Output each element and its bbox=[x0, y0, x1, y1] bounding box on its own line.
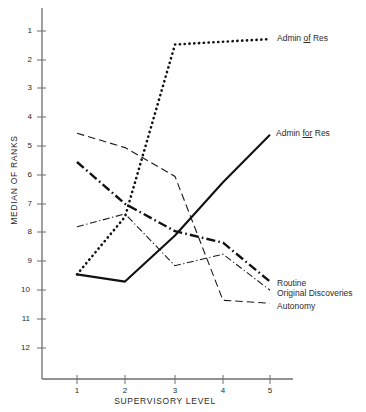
y-tick-label: 3 bbox=[10, 83, 32, 92]
series-label-routine: Routine bbox=[277, 278, 306, 288]
y-tick-label: 12 bbox=[8, 343, 30, 352]
series-label-original-discoveries: Original Discoveries bbox=[277, 288, 353, 298]
y-axis-title: MEDIAN OF RANKS bbox=[9, 115, 19, 245]
x-tick-label: 5 bbox=[260, 386, 280, 395]
y-tick-label: 11 bbox=[8, 314, 30, 323]
y-tick-label: 9 bbox=[10, 256, 32, 265]
series-line-admin-for-res bbox=[77, 135, 270, 282]
series-label-autonomy: Autonomy bbox=[277, 301, 315, 311]
series-label-admin-of-res: Admin of Res bbox=[277, 33, 328, 43]
chart-canvas bbox=[0, 0, 366, 412]
series-line-routine bbox=[77, 162, 270, 282]
chart-figure: 1 2 3 4 5 6 7 8 9 10 11 12 1 2 3 4 5 MED… bbox=[0, 0, 366, 412]
x-tick-label: 2 bbox=[115, 386, 135, 395]
y-tick-label: 2 bbox=[10, 55, 32, 64]
x-tick-label: 3 bbox=[165, 386, 185, 395]
series-label-admin-for-res: Admin for Res bbox=[276, 128, 330, 138]
series-line-admin-of-res bbox=[77, 39, 270, 274]
y-tick-label: 10 bbox=[8, 285, 30, 294]
axis-lines bbox=[42, 8, 293, 379]
x-tick-label: 1 bbox=[67, 386, 87, 395]
x-tick-label: 4 bbox=[213, 386, 233, 395]
y-tick-label: 1 bbox=[10, 26, 32, 35]
x-axis-title: SUPERVISORY LEVEL bbox=[0, 396, 330, 406]
